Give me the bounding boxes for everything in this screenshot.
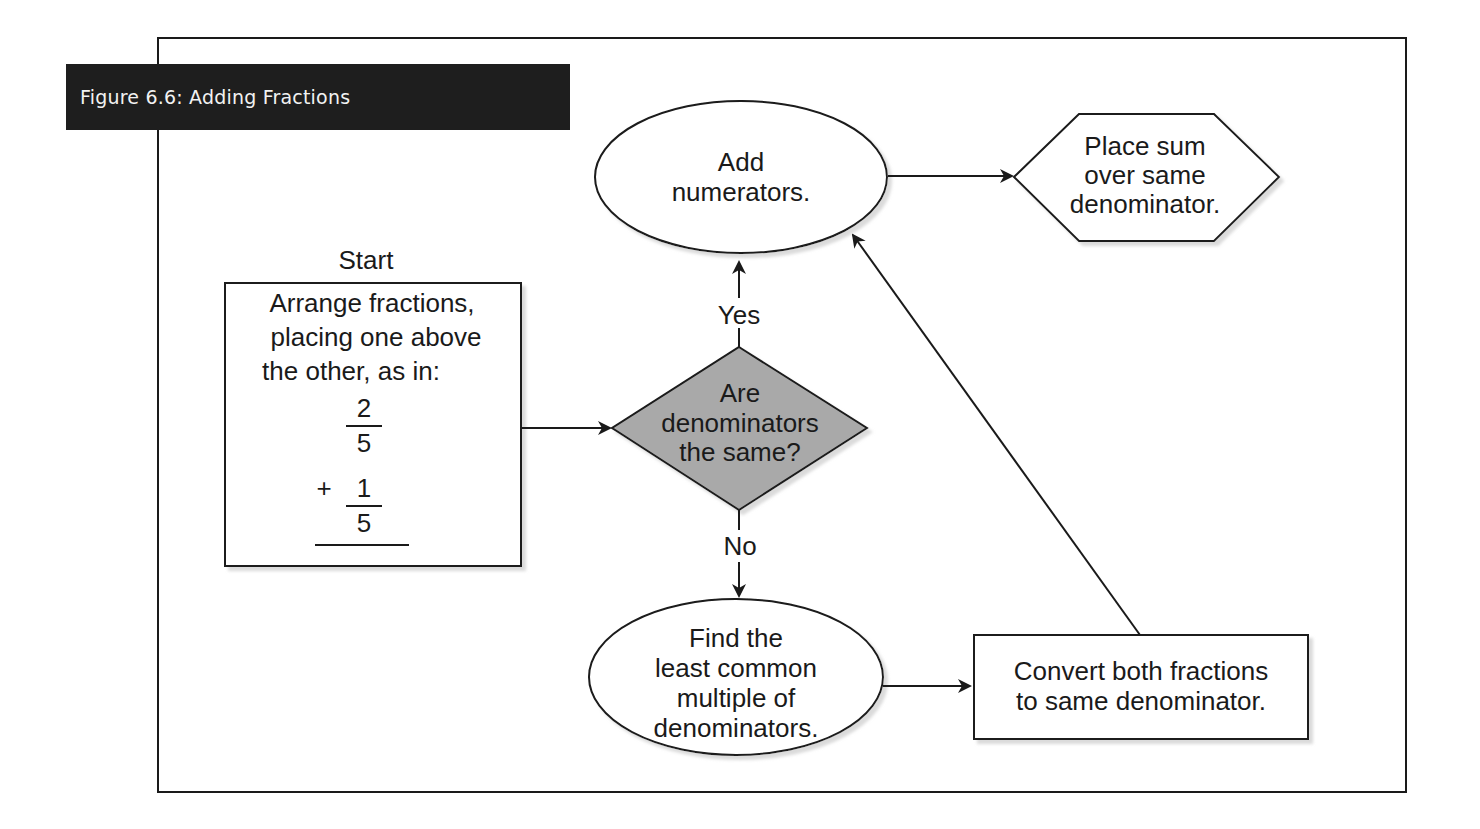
lcm-line-1: Find the — [689, 623, 783, 653]
arrange-line-3: the other, as in: — [262, 356, 440, 386]
add-line-1: Add — [718, 147, 764, 177]
figure-title-bar: Figure 6.6: Adding Fractions — [66, 64, 570, 130]
start-label: Start — [339, 245, 395, 275]
fraction1-denominator: 5 — [357, 428, 371, 458]
place-line-2: over same — [1084, 160, 1205, 190]
lcm-line-3: multiple of — [677, 683, 796, 713]
no-label: No — [723, 531, 756, 561]
convert-line-2: to same denominator. — [1016, 686, 1266, 716]
place-line-1: Place sum — [1084, 131, 1205, 161]
arrange-line-2: placing one above — [270, 322, 481, 352]
fraction2-numerator: 1 — [357, 473, 371, 503]
plus-operator: + — [316, 473, 331, 503]
decision-line-1: Are — [720, 378, 760, 408]
arrange-line-1: Arrange fractions, — [269, 288, 474, 318]
decision-line-3: the same? — [679, 437, 800, 467]
lcm-line-2: least common — [655, 653, 817, 683]
yes-label: Yes — [718, 300, 760, 330]
lcm-line-4: denominators. — [654, 713, 819, 743]
fraction1-numerator: 2 — [357, 393, 371, 423]
arrow-convert-to-add — [853, 235, 1140, 635]
figure-title: Figure 6.6: Adding Fractions — [80, 86, 350, 108]
decision-line-2: denominators — [661, 408, 819, 438]
add-line-2: numerators. — [672, 177, 811, 207]
convert-line-1: Convert both fractions — [1014, 656, 1268, 686]
place-line-3: denominator. — [1070, 189, 1220, 219]
fraction2-denominator: 5 — [357, 508, 371, 538]
